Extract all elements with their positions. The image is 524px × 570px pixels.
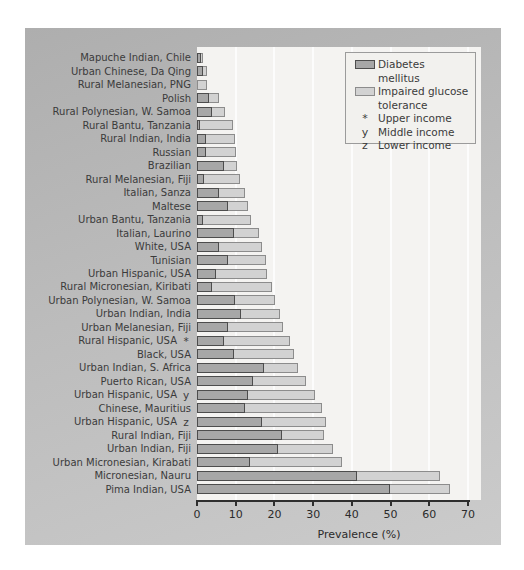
- bar-segment-igt: [244, 403, 322, 413]
- row-label-text: Russian: [152, 147, 191, 158]
- bar-segment-diabetes: [197, 66, 203, 76]
- bar-segment-igt: [215, 269, 267, 279]
- row-label: Russian: [25, 145, 191, 158]
- bar-segment-diabetes: [197, 390, 248, 400]
- legend-symbol-cell: *: [352, 112, 378, 126]
- bar-segment-igt: [218, 188, 245, 198]
- bar-segment-igt: [211, 282, 272, 292]
- row-label-text: Puerto Rican, USA: [101, 376, 191, 387]
- x-tick-40: [351, 500, 353, 506]
- bar-segment-igt: [205, 134, 235, 144]
- bar-segment-igt: [223, 161, 237, 171]
- bar-segment-igt: [202, 215, 251, 225]
- row-label: Urban Hispanic, USA: [25, 267, 191, 280]
- row-label: Puerto Rican, USA: [25, 375, 191, 388]
- row-label: Tunisian: [25, 253, 191, 266]
- x-tick-label-10: 10: [221, 508, 251, 521]
- row-label: White, USA: [25, 240, 191, 253]
- row-label-text: Micronesian, Nauru: [94, 470, 191, 481]
- bar-segment-diabetes: [197, 215, 203, 225]
- x-tick-60: [428, 500, 430, 506]
- bar-segment-igt: [227, 322, 283, 332]
- row-label-text: Urban Melanesian, Fiji: [81, 322, 191, 333]
- row-label-text: Rural Melanesian, Fiji: [86, 174, 191, 185]
- row-label-text: Rural Hispanic, USA: [78, 335, 177, 346]
- bar-segment-diabetes: [197, 444, 278, 454]
- row-label: Urban Chinese, Da Qing: [25, 64, 191, 77]
- row-label-text: Polish: [162, 93, 191, 104]
- row-label-text: Maltese: [152, 201, 191, 212]
- row-label: Pima Indian, USA: [25, 483, 191, 496]
- bar-segment-igt: [227, 201, 248, 211]
- row-label-text: Urban Micronesian, Kirabati: [53, 457, 191, 468]
- income-marker: *: [181, 335, 191, 347]
- x-tick-label-60: 60: [414, 508, 444, 521]
- row-label: Italian, Laurino: [25, 226, 191, 239]
- bar-segment-igt: [199, 120, 233, 130]
- row-label: Mapuche Indian, Chile: [25, 51, 191, 64]
- row-label-text: Tunisian: [151, 255, 192, 266]
- row-label-text: Pima Indian, USA: [105, 484, 191, 495]
- row-label-text: Black, USA: [137, 349, 191, 360]
- bar-segment-igt: [356, 471, 440, 481]
- legend-symbol: y: [362, 126, 369, 140]
- row-label: Urban Indian, S. Africa: [25, 361, 191, 374]
- x-tick-label-20: 20: [259, 508, 289, 521]
- row-label: Maltese: [25, 199, 191, 212]
- legend-item: Impaired glucose tolerance: [352, 85, 469, 112]
- bar-segment-igt: [249, 457, 341, 467]
- bar-segment-diabetes: [197, 242, 219, 252]
- x-tick-label-50: 50: [376, 508, 406, 521]
- row-label: Italian, Sanza: [25, 186, 191, 199]
- bar-segment-igt: [223, 336, 290, 346]
- row-label: Rural Indian, India: [25, 132, 191, 145]
- row-label-text: Urban Hispanic, USA: [74, 389, 177, 400]
- legend: Diabetes mellitusImpaired glucose tolera…: [345, 52, 476, 144]
- legend-item: yMiddle income: [352, 126, 469, 140]
- bar-segment-igt: [277, 444, 333, 454]
- row-label: Micronesian, Nauru: [25, 469, 191, 482]
- legend-item-label: Diabetes mellitus: [378, 58, 469, 85]
- bar-segment-diabetes: [197, 349, 234, 359]
- bar-segment-diabetes: [197, 376, 253, 386]
- bar-segment-diabetes: [197, 255, 228, 265]
- row-label: Rural Hispanic, USA*: [25, 334, 191, 347]
- legend-symbol: *: [362, 112, 368, 126]
- row-label: Urban Hispanic, USAz: [25, 415, 191, 428]
- bar-segment-igt: [205, 147, 237, 157]
- bar-segment-diabetes: [197, 403, 245, 413]
- bar-segment-diabetes: [197, 269, 216, 279]
- bar-segment-diabetes: [197, 161, 224, 171]
- legend-item-label: Middle income: [378, 126, 469, 140]
- row-label-text: Chinese, Mauritius: [98, 403, 191, 414]
- category-labels-column: Mapuche Indian, ChileUrban Chinese, Da Q…: [25, 47, 191, 500]
- bar-segment-igt: [233, 349, 294, 359]
- bar-segment-igt: [197, 80, 207, 90]
- bar-segment-diabetes: [197, 484, 390, 494]
- bar-segment-diabetes: [197, 336, 224, 346]
- bar-segment-igt: [233, 228, 259, 238]
- bar-segment-diabetes: [197, 322, 228, 332]
- row-label: Polish: [25, 91, 191, 104]
- row-label: Urban Micronesian, Kirabati: [25, 456, 191, 469]
- legend-symbol-cell: y: [352, 126, 378, 140]
- bar-segment-diabetes: [197, 430, 282, 440]
- row-label-text: Urban Polynesian, W. Samoa: [48, 295, 191, 306]
- bar-segment-diabetes: [197, 174, 204, 184]
- x-tick-label-40: 40: [337, 508, 367, 521]
- row-label-text: Rural Melanesian, PNG: [78, 79, 191, 90]
- row-label: Urban Indian, India: [25, 307, 191, 320]
- bar-segment-igt: [389, 484, 450, 494]
- bar-segment-diabetes: [197, 134, 206, 144]
- row-label-text: Italian, Sanza: [123, 187, 191, 198]
- bar-segment-igt: [203, 174, 240, 184]
- row-label: Rural Melanesian, Fiji: [25, 172, 191, 185]
- legend-item-label: Lower income: [378, 139, 469, 153]
- row-label-text: Urban Hispanic, USA: [74, 416, 177, 427]
- bar-segment-diabetes: [197, 228, 234, 238]
- bar-segment-igt: [234, 295, 275, 305]
- legend-swatch-cell: [352, 58, 378, 69]
- row-label: Rural Micronesian, Kiribati: [25, 280, 191, 293]
- row-label-text: Urban Indian, Fiji: [107, 443, 191, 454]
- x-tick-10: [235, 500, 237, 506]
